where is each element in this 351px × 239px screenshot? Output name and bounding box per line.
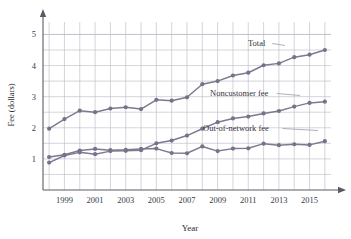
x-tick-label: 1999: [56, 195, 73, 205]
data-point-marker: [246, 71, 250, 75]
data-point-marker: [93, 147, 97, 151]
data-point-marker: [78, 148, 82, 152]
x-tick-label: 2011: [240, 195, 257, 205]
data-point-marker: [154, 147, 158, 151]
y-tick-label: 4: [32, 61, 37, 71]
data-point-marker: [277, 109, 281, 113]
data-point-marker: [292, 105, 296, 109]
data-point-marker: [62, 153, 66, 157]
data-point-marker: [262, 63, 266, 67]
x-tick-label: 2003: [117, 195, 134, 205]
data-point-marker: [262, 111, 266, 115]
data-point-marker: [292, 142, 296, 146]
data-point-marker: [216, 149, 220, 153]
outofnetwork-label: Out-of-network fee: [203, 123, 269, 133]
x-tick-label: 2005: [148, 195, 165, 205]
x-tick-label: 2009: [209, 195, 226, 205]
data-point-marker: [307, 101, 311, 105]
data-point-marker: [200, 82, 204, 86]
y-tick-label: 2: [32, 123, 36, 133]
data-point-marker: [323, 48, 327, 52]
data-point-marker: [323, 100, 327, 104]
x-tick-labels-group: 199920012003200520072009201120132015: [56, 195, 318, 205]
data-point-marker: [124, 148, 128, 152]
data-point-marker: [108, 148, 112, 152]
data-point-marker: [93, 110, 97, 114]
data-point-marker: [323, 139, 327, 143]
data-point-marker: [108, 106, 112, 110]
data-point-marker: [307, 53, 311, 57]
data-point-marker: [47, 127, 51, 131]
series-annotations-group: TotalNoncustomer feeOut-of-network fee: [203, 38, 318, 133]
axes-group: [40, 9, 346, 193]
x-tick-label: 2001: [87, 195, 104, 205]
y-axis-arrow-icon: [40, 9, 46, 17]
data-point-marker: [170, 138, 174, 142]
x-tick-label: 2013: [270, 195, 287, 205]
data-point-marker: [170, 151, 174, 155]
data-point-marker: [307, 143, 311, 147]
data-point-marker: [139, 107, 143, 111]
data-point-marker: [93, 152, 97, 156]
x-axis-title: Year: [182, 223, 199, 233]
data-point-marker: [185, 133, 189, 137]
x-axis-arrow-icon: [338, 187, 346, 193]
data-point-marker: [124, 105, 128, 109]
data-point-marker: [200, 144, 204, 148]
gridlines-group: [43, 22, 331, 190]
data-point-marker: [78, 109, 82, 113]
data-point-marker: [231, 73, 235, 77]
chart-container: 12345 1999200120032005200720092011201320…: [0, 0, 351, 239]
data-point-marker: [246, 114, 250, 118]
data-point-marker: [262, 142, 266, 146]
data-point-marker: [185, 95, 189, 99]
total-label: Total: [248, 38, 266, 48]
data-point-marker: [139, 147, 143, 151]
data-point-marker: [231, 147, 235, 151]
x-tick-label: 2015: [301, 195, 318, 205]
data-point-marker: [277, 61, 281, 65]
data-point-marker: [246, 146, 250, 150]
y-tick-label: 1: [32, 154, 36, 164]
data-point-marker: [154, 141, 158, 145]
data-point-marker: [185, 151, 189, 155]
data-point-marker: [292, 55, 296, 59]
line-chart: 12345 1999200120032005200720092011201320…: [0, 0, 351, 239]
noncustomer-label: Noncustomer fee: [210, 88, 269, 98]
data-point-marker: [277, 143, 281, 147]
y-tick-label: 5: [32, 29, 36, 39]
annotation-leader-line: [277, 94, 300, 96]
annotation-leader-line: [283, 129, 319, 131]
data-point-marker: [231, 116, 235, 120]
data-point-marker: [154, 98, 158, 102]
data-point-marker: [62, 117, 66, 121]
data-point-marker: [216, 79, 220, 83]
data-point-marker: [170, 99, 174, 103]
y-tick-label: 3: [32, 92, 36, 102]
x-tick-label: 2007: [179, 195, 196, 205]
data-point-marker: [47, 155, 51, 159]
data-point-marker: [47, 161, 51, 165]
y-axis-title: Fee (dollars): [6, 83, 16, 126]
y-tick-labels-group: 12345: [32, 29, 37, 163]
